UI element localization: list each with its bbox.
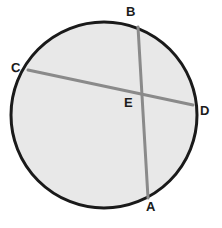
point-label-e: E <box>124 96 133 109</box>
point-label-b: B <box>126 5 135 18</box>
point-label-c: C <box>11 61 20 74</box>
geometry-figure: B C D E A <box>0 0 222 228</box>
point-label-d: D <box>200 104 209 117</box>
geometry-canvas <box>0 0 222 228</box>
circle-shape <box>11 22 197 208</box>
point-label-a: A <box>146 200 155 213</box>
